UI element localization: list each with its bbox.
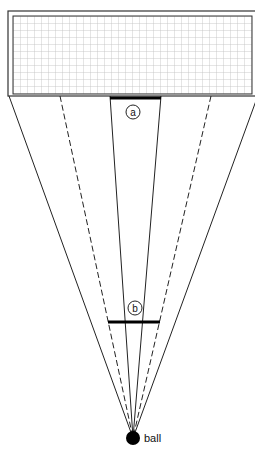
goal (8, 11, 255, 96)
ray-inner-left (110, 96, 133, 438)
ball-label: ball (144, 432, 161, 444)
defender-positions: ab (108, 98, 161, 322)
ball-icon (126, 431, 140, 445)
ray-outer-left (9, 96, 133, 438)
position-label-a: a (130, 107, 136, 118)
ray-dashed-right (133, 96, 211, 438)
ray-outer-right (133, 98, 255, 438)
goal-net (13, 16, 252, 94)
ray-inner-right (133, 96, 161, 438)
shooting-angle-diagram: ab ball (0, 0, 255, 457)
marker-a: a (110, 98, 161, 119)
ball-group: ball (126, 431, 161, 445)
position-label-b: b (132, 303, 138, 314)
marker-b: b (108, 301, 160, 322)
shot-rays (9, 96, 255, 438)
